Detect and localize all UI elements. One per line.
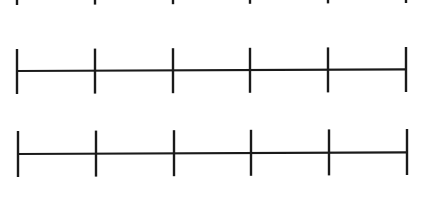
number-line-worksheet <box>0 0 424 197</box>
background <box>0 0 424 197</box>
number-line-baseline <box>17 69 406 71</box>
number-line-baseline <box>18 152 407 154</box>
